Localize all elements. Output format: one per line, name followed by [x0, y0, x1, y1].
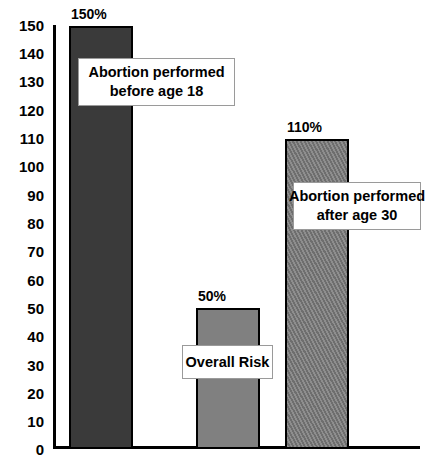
y-tick-130: 130 [0, 74, 44, 89]
y-axis-line [53, 25, 56, 449]
callout-before-age-18-line1: Abortion performed [88, 63, 224, 82]
y-tick-110: 110 [0, 131, 44, 146]
y-tick-70: 70 [0, 244, 44, 259]
y-tick-60: 60 [0, 273, 44, 288]
y-tick-150: 150 [0, 18, 44, 33]
y-tick-120: 120 [0, 103, 44, 118]
callout-before-age-18-line2: before age 18 [110, 82, 204, 101]
callout-overall-risk: Overall Risk [182, 345, 273, 379]
callout-before-age-18: Abortion performed before age 18 [78, 58, 235, 106]
callout-after-age-30-line2: after age 30 [317, 206, 398, 225]
value-label-bar-1: 150% [71, 7, 107, 21]
callout-after-age-30: Abortion performed after age 30 [293, 182, 421, 230]
bar-chart: 150 140 130 120 110 100 90 80 70 60 50 4… [0, 0, 427, 463]
y-tick-100: 100 [0, 159, 44, 174]
y-tick-50: 50 [0, 301, 44, 316]
callout-after-age-30-line1: Abortion performed [289, 187, 425, 206]
y-tick-90: 90 [0, 188, 44, 203]
y-tick-80: 80 [0, 216, 44, 231]
y-tick-40: 40 [0, 329, 44, 344]
y-tick-140: 140 [0, 46, 44, 61]
value-label-bar-3: 110% [287, 120, 322, 134]
value-label-bar-2: 50% [198, 289, 226, 303]
y-tick-20: 20 [0, 386, 44, 401]
callout-overall-risk-line1: Overall Risk [186, 353, 270, 372]
y-tick-10: 10 [0, 414, 44, 429]
y-tick-30: 30 [0, 358, 44, 373]
y-tick-0: 0 [0, 442, 44, 457]
